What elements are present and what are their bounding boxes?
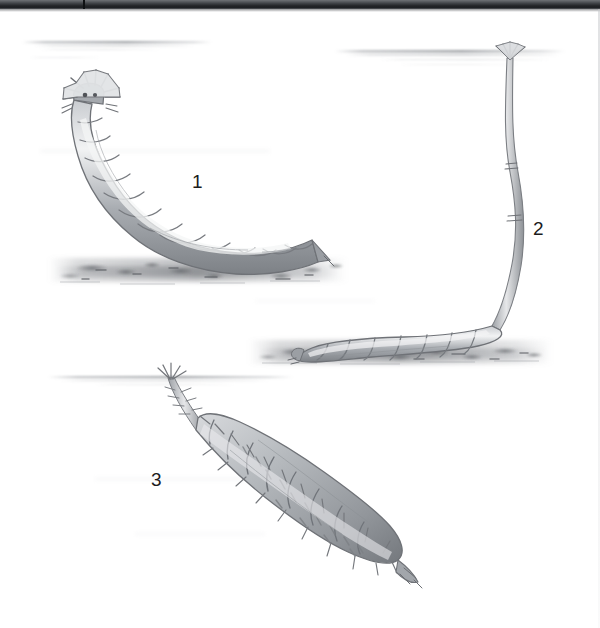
larvae-illustration <box>0 0 600 628</box>
figure-label-3: 3 <box>151 470 162 489</box>
water-surface-upper-right <box>335 50 565 65</box>
figure-label-2: 2 <box>533 219 544 238</box>
figure-label-1: 1 <box>192 172 203 191</box>
water-surface-upper-left <box>22 41 212 58</box>
illustration-plate: 1 2 3 <box>0 0 600 628</box>
larva-2 <box>288 42 525 364</box>
larva-3 <box>158 363 422 588</box>
